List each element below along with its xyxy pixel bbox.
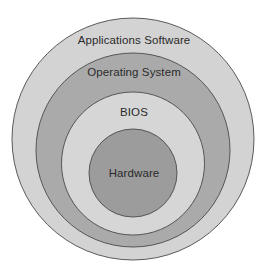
operating-system-label: Operating System (0, 65, 268, 79)
applications-software-label: Applications Software (0, 33, 268, 47)
bios-label: BIOS (0, 105, 268, 119)
layered-system-diagram: Applications Software Operating System B… (0, 0, 268, 277)
hardware-label: Hardware (0, 166, 268, 180)
